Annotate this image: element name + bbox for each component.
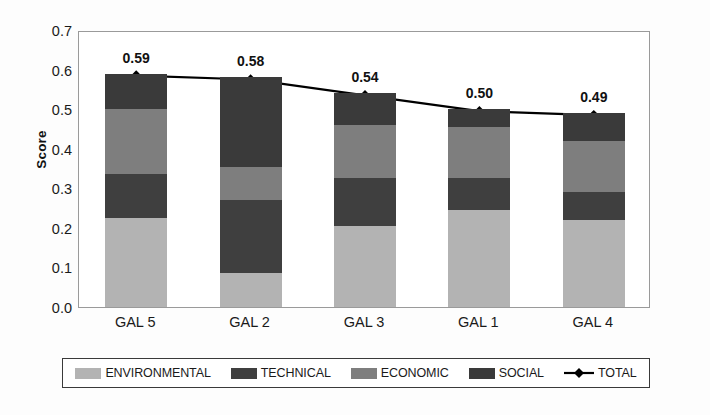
data-label: 0.54 [330,69,400,85]
bar-stack [563,30,625,307]
plot-area: 0.590.580.540.500.49 [78,31,650,308]
y-axis-tick-label: 0.2 [28,221,72,237]
data-label: 0.59 [101,50,171,66]
bar-segment-technical[interactable] [105,174,167,218]
bar-segment-economic[interactable] [334,125,396,178]
bar-group[interactable] [220,30,282,307]
data-label: 0.49 [559,89,629,105]
bar-segment-environmental[interactable] [105,218,167,307]
bar-group[interactable] [105,30,167,307]
x-axis-tick-label: GAL 1 [423,314,533,330]
y-axis-tick-label: 0.4 [28,142,72,158]
data-label: 0.50 [444,85,514,101]
bar-segment-social[interactable] [563,113,625,141]
x-axis-tick-label: GAL 3 [309,314,419,330]
y-axis-tick-label: 0.0 [28,300,72,316]
y-axis-tick-label: 0.5 [28,102,72,118]
bar-segment-social[interactable] [334,93,396,125]
x-axis-tick-label: GAL 5 [80,314,190,330]
bar-stack [220,30,282,307]
y-axis-tick-labels: 0.70.60.50.40.30.20.10.0 [28,25,72,308]
legend-entry-total[interactable]: TOTAL [564,366,637,380]
bar-segment-environmental[interactable] [448,210,510,307]
x-axis-tick-label: GAL 4 [538,314,648,330]
bar-group[interactable] [448,30,510,307]
legend-label: TOTAL [598,366,637,380]
legend-marker-total [564,367,594,379]
bar-segment-environmental[interactable] [563,220,625,307]
bar-segment-economic[interactable] [220,167,282,201]
y-axis-tick-label: 0.7 [28,23,72,39]
legend-swatch-economic [351,368,377,379]
legend-label: ENVIRONMENTAL [105,366,210,380]
bar-segment-technical[interactable] [220,200,282,273]
bar-segment-economic[interactable] [448,127,510,178]
y-axis-tick-label: 0.3 [28,181,72,197]
bar-segment-economic[interactable] [105,109,167,174]
x-axis-tick-label: GAL 2 [195,314,305,330]
bar-segment-social[interactable] [220,77,282,166]
bar-segment-technical[interactable] [334,178,396,225]
bar-segment-economic[interactable] [563,141,625,192]
bar-segment-environmental[interactable] [220,273,282,307]
chart-legend: ENVIRONMENTALTECHNICALECONOMICSOCIALTOTA… [62,358,650,388]
legend-entry-technical[interactable]: TECHNICAL [231,366,331,380]
bar-stack [105,30,167,307]
data-label: 0.58 [216,53,286,69]
legend-entry-economic[interactable]: ECONOMIC [351,366,449,380]
stacked-bar-chart-figure: Score 0.70.60.50.40.30.20.10.0 0.590.580… [0,0,710,415]
legend-swatch-social [469,368,495,379]
legend-swatch-environmental [75,368,101,379]
x-axis-tick-labels: GAL 5GAL 2GAL 3GAL 1GAL 4 [78,314,650,338]
bar-segment-technical[interactable] [448,178,510,210]
bar-segment-social[interactable] [105,74,167,110]
legend-entry-social[interactable]: SOCIAL [469,366,544,380]
legend-label: TECHNICAL [261,366,331,380]
legend-label: ECONOMIC [381,366,449,380]
bar-stack [448,30,510,307]
plot-inner: 0.590.580.540.500.49 [79,32,649,307]
legend-swatch-technical [231,368,257,379]
y-axis-tick-label: 0.1 [28,260,72,276]
bar-segment-technical[interactable] [563,192,625,220]
legend-label: SOCIAL [499,366,544,380]
y-axis-tick-label: 0.6 [28,63,72,79]
legend-entry-environmental[interactable]: ENVIRONMENTAL [75,366,210,380]
bar-segment-social[interactable] [448,109,510,127]
bar-group[interactable] [563,30,625,307]
bar-segment-environmental[interactable] [334,226,396,307]
